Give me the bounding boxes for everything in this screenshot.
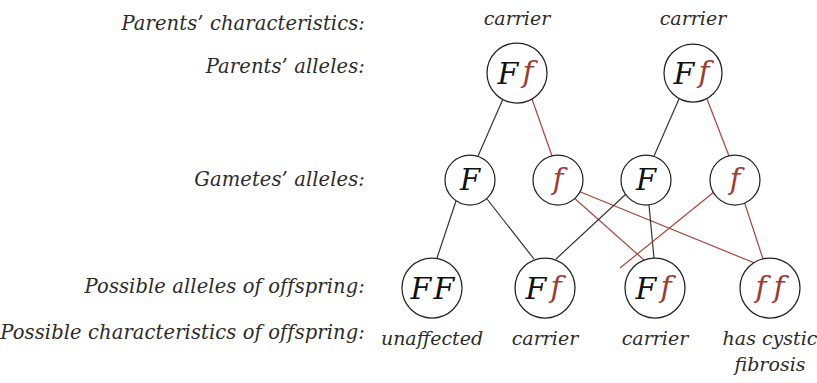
- gametes-row: F f F f: [445, 155, 760, 205]
- offspring-2-characteristic: carrier: [512, 327, 580, 349]
- connector-gamete1-to-offspring2: [487, 199, 534, 259]
- connectors-gametes-to-offspring: [437, 191, 763, 268]
- offspring-1-allele-second: F: [433, 271, 456, 306]
- connector-parent1-to-gamete1: [478, 99, 503, 156]
- gamete-3-allele: F: [635, 163, 657, 197]
- parent-1-allele-dominant: F: [497, 56, 520, 91]
- pedigree-svg: carrier F f carrier F f F: [0, 0, 817, 383]
- offspring-3-characteristic: carrier: [622, 327, 690, 349]
- offspring-4-characteristic: has cystic: [723, 327, 817, 349]
- connector-gamete3-to-offspring3: [649, 205, 654, 258]
- parents-row: carrier F f carrier F f: [484, 7, 728, 103]
- cystic-fibrosis-inheritance-diagram: Parents’ characteristics: Parents’ allel…: [0, 0, 817, 383]
- parent-1-characteristic: carrier: [484, 7, 552, 29]
- connector-parent2-to-gamete3: [654, 99, 679, 156]
- parent-2-allele-dominant: F: [673, 56, 696, 91]
- offspring-4-characteristic-line2: fibrosis: [733, 353, 806, 375]
- gamete-1-allele: F: [459, 163, 481, 197]
- connector-gamete4-to-offspring4: [744, 201, 763, 259]
- connector-gamete2-to-offspring3: [573, 197, 644, 260]
- connectors-parents-to-gametes: [478, 99, 729, 156]
- parent-2-characteristic: carrier: [660, 7, 728, 29]
- connector-gamete4-to-offspring3: [620, 192, 714, 268]
- offspring-row: F F unaffected F f carrier F f carr: [381, 258, 817, 375]
- offspring-2-allele-first: F: [525, 271, 548, 306]
- offspring-4-circle[interactable]: [740, 258, 800, 318]
- offspring-1-characteristic: unaffected: [381, 327, 483, 349]
- connector-parent1-to-gamete2: [532, 99, 552, 156]
- offspring-1-allele-first: F: [410, 271, 433, 306]
- connector-parent2-to-gamete4: [707, 99, 729, 156]
- offspring-3-allele-first: F: [635, 271, 658, 306]
- connector-gamete1-to-offspring1: [437, 201, 456, 258]
